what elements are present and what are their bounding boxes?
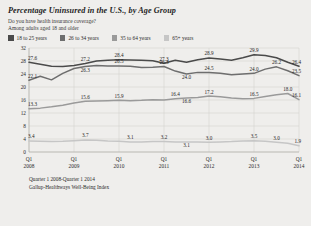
x-axis-tick-year: 2009 [69,163,80,169]
legend-swatch-icon [112,35,118,41]
chart-legend: 18 to 25 years26 to 34 years35 to 64 yea… [8,35,305,41]
data-label: 24.5 [204,65,213,71]
data-label: 29.9 [249,47,258,53]
data-label: 27.2 [81,56,90,62]
legend-label: 26 to 34 years [68,35,98,41]
data-label: 16.4 [171,91,180,97]
data-label: 26.2 [272,59,281,65]
data-label: 24.0 [249,66,258,72]
data-label: 17.2 [204,89,213,95]
legend-item-3[interactable]: 65+ years [164,35,194,41]
data-label: 26.5 [114,58,123,64]
data-label: 16.6 [182,98,191,104]
chart-footer: Quarter 1 2008-Quarter 1 2014 Gallup-Hea… [29,176,305,191]
data-label: 23.5 [292,68,301,74]
data-label: 3.7 [82,132,89,138]
data-label: 3.1 [127,134,134,140]
data-label: 16.1 [292,92,301,98]
data-label: 3.2 [161,134,168,140]
data-label: 28.9 [204,50,213,56]
data-label: 26.3 [159,59,168,65]
data-label: 22.1 [28,73,37,79]
x-axis-tick-quarter: Q1 [251,156,258,162]
legend-label: 35 to 64 years [120,35,150,41]
subtitle-question: Do you have health insurance coverage? [8,18,305,24]
data-label: 27.6 [28,55,37,61]
x-axis-tick-year: 2012 [204,163,215,169]
line-chart-svg: 048121620242832Q12008Q12009Q12010Q12011Q… [7,44,306,172]
data-label: 15.9 [114,93,123,99]
legend-item-0[interactable]: 18 to 25 years [8,35,47,41]
y-axis-tick-label: 32 [21,45,27,51]
data-label: 13.3 [28,101,37,107]
legend-item-1[interactable]: 26 to 34 years [60,35,99,41]
x-axis-tick-quarter: Q1 [116,156,123,162]
y-axis-tick-label: 28 [21,58,27,64]
x-axis-tick-year: 2013 [249,163,260,169]
y-axis-tick-label: 24 [21,71,27,77]
y-axis-tick-label: 20 [21,84,27,90]
data-label: 15.6 [81,94,90,100]
subtitle-population: Among adults aged 18 and older [8,25,305,31]
data-label: 26.4 [292,59,301,65]
y-axis-tick-label: 16 [21,97,27,103]
page-title: Percentage Uninsured in the U.S., by Age… [8,6,305,15]
legend-item-2[interactable]: 35 to 64 years [112,35,151,41]
x-axis-tick-quarter: Q1 [26,156,33,162]
data-label: 3.1 [183,142,190,148]
x-axis-tick-year: 2008 [24,163,35,169]
legend-label: 65+ years [172,35,193,41]
legend-swatch-icon [8,35,14,41]
x-axis-tick-year: 2014 [294,163,305,169]
data-label: 28.4 [114,52,123,58]
chart-page: Percentage Uninsured in the U.S., by Age… [0,0,311,226]
y-axis-tick-label: 0 [23,149,26,155]
legend-label: 18 to 25 years [17,35,47,41]
data-label: 3.0 [273,135,280,141]
data-label: 16.5 [249,91,258,97]
y-axis-tick-label: 4 [23,136,26,142]
footer-date-range: Quarter 1 2008-Quarter 1 2014 [29,176,305,184]
x-axis-tick-year: 2010 [114,163,125,169]
data-label: 3.5 [251,133,258,139]
y-axis-tick-label: 8 [23,123,26,129]
chart-plot-area: 048121620242832Q12008Q12009Q12010Q12011Q… [7,44,306,172]
x-axis-tick-quarter: Q1 [161,156,168,162]
legend-swatch-icon [164,35,170,41]
legend-swatch-icon [60,35,66,41]
x-axis-tick-quarter: Q1 [71,156,78,162]
data-label: 3.4 [28,133,35,139]
data-label: 18.0 [283,86,292,92]
data-label: 26.3 [81,67,90,73]
x-axis-tick-quarter: Q1 [206,156,213,162]
x-axis-tick-quarter: Q1 [296,156,303,162]
x-axis-tick-year: 2011 [159,163,170,169]
data-label: 1.9 [295,138,302,144]
y-axis-tick-label: 12 [21,110,27,116]
footer-source: Gallup-Healthways Well-Being Index [29,184,305,192]
data-label: 3.0 [206,135,213,141]
data-label: 24.0 [182,74,191,80]
